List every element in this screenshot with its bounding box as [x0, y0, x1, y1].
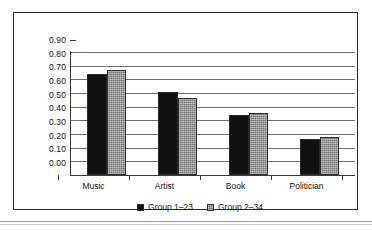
bar-artist-series-1 — [158, 92, 178, 175]
legend-entry-2[interactable]: Group 2–34 — [207, 203, 263, 212]
y-axis-tick-label: 0.50 — [22, 91, 66, 100]
x-axis-label-politician: Politician — [271, 182, 342, 191]
y-axis-tick-labels: 0.900.800.700.600.500.400.300.200.100.00 — [18, 13, 66, 231]
y-axis-tick-mark — [70, 40, 76, 41]
bar-book-series-1 — [229, 115, 249, 175]
legend-entry-1[interactable]: Group 1–23 — [137, 203, 193, 212]
x-axis-tick-mark — [342, 175, 343, 180]
gridline — [71, 52, 355, 53]
y-axis-tick-label: 0.80 — [22, 50, 66, 59]
legend-swatch-icon-1 — [137, 204, 144, 211]
bar-music-series-1 — [87, 74, 107, 175]
x-axis-line — [70, 175, 355, 176]
bar-music-series-2 — [107, 70, 127, 175]
x-axis-label-artist: Artist — [129, 182, 200, 191]
y-axis-tick-label: 0.30 — [22, 118, 66, 127]
y-axis-tick-label: 0.90 — [22, 36, 66, 45]
x-axis-label-book: Book — [200, 182, 271, 191]
bar-politician-series-2 — [320, 137, 340, 175]
y-axis-tick-label: 0.10 — [22, 145, 66, 154]
legend-label-2: Group 2–34 — [218, 203, 263, 212]
x-axis-tick-mark — [200, 175, 201, 180]
page-divider-rule — [0, 221, 372, 222]
x-axis-tick-mark — [58, 175, 59, 180]
page-divider-rule-secondary — [0, 224, 372, 225]
chart-legend: Group 1–23Group 2–34 — [14, 203, 372, 212]
gridline — [71, 66, 355, 67]
chart-figure-frame: 0.900.800.700.600.500.400.300.200.100.00… — [13, 12, 358, 210]
bar-book-series-2 — [249, 113, 269, 175]
y-axis-tick-label: 0.70 — [22, 63, 66, 72]
x-axis-tick-mark — [271, 175, 272, 180]
y-axis-tick-label: 0.60 — [22, 77, 66, 86]
x-axis-tick-mark — [129, 175, 130, 180]
bar-artist-series-2 — [178, 98, 198, 175]
legend-label-1: Group 1–23 — [148, 203, 193, 212]
x-axis-label-music: Music — [58, 182, 129, 191]
legend-swatch-icon-2 — [207, 204, 214, 211]
plot-area — [71, 52, 355, 175]
y-axis-tick-label: 0.40 — [22, 104, 66, 113]
y-axis-tick-label: 0.20 — [22, 132, 66, 141]
y-axis-tick-label: 0.00 — [22, 159, 66, 168]
bar-politician-series-1 — [300, 139, 320, 175]
